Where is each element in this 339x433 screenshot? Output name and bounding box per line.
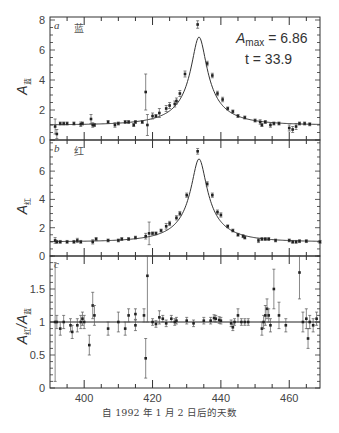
y-tick-label: 2	[39, 104, 45, 116]
y-tick-label: 0	[39, 250, 45, 262]
panel-letter: a	[54, 19, 60, 31]
x-tick-label: 400	[75, 392, 93, 404]
data-points	[54, 148, 322, 244]
y-tick-label: 1.5	[30, 283, 45, 295]
microlensing-light-curve-figure: 02468a蓝A蓝Amax = 6.86t = 33.90246b红A红00.5…	[0, 0, 339, 433]
panel-c: 00.511.5cA红/A蓝	[14, 256, 320, 394]
band-label: 红	[74, 145, 84, 157]
panel-letter: c	[54, 258, 59, 270]
x-axis-label: 自 1992 年 1 月 2 日后的天数	[0, 405, 339, 419]
te-annotation: t = 33.9	[245, 51, 292, 67]
panel-frame	[50, 140, 320, 256]
y-axis-label: A蓝	[14, 78, 31, 95]
y-tick-label: 2	[39, 222, 45, 234]
y-tick-label: 1	[39, 316, 45, 328]
band-label: 蓝	[74, 23, 84, 34]
y-tick-label: 4	[39, 74, 45, 86]
x-tick-label: 460	[280, 392, 298, 404]
y-tick-label: 0	[39, 134, 45, 146]
amax-annotation: Amax = 6.86	[235, 30, 308, 48]
panel-b: 0246b红A红	[14, 140, 322, 262]
panel-letter: b	[54, 142, 60, 154]
y-tick-label: 6	[39, 165, 45, 177]
y-tick-label: 4	[39, 193, 45, 205]
y-axis-label: A红	[14, 198, 31, 215]
y-tick-label: 0.5	[30, 349, 45, 361]
panel-a: 02468a蓝A蓝Amax = 6.86t = 33.9	[14, 14, 320, 146]
fit-curve	[50, 159, 320, 242]
x-tick-label: 420	[143, 392, 161, 404]
y-tick-label: 0	[39, 382, 45, 394]
x-tick-label: 440	[212, 392, 230, 404]
y-axis-label: A红/A蓝	[14, 308, 31, 346]
y-tick-label: 6	[39, 44, 45, 56]
data-points	[54, 256, 318, 381]
y-tick-label: 8	[39, 14, 45, 26]
